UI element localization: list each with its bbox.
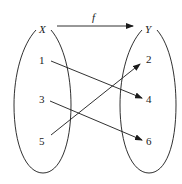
domain-element-5: 5 <box>39 135 45 147</box>
mapping-arrow-1-to-4 <box>51 61 142 98</box>
function-mapping-diagram: X Y f 1 3 5 2 4 6 <box>0 0 182 184</box>
domain-element-3: 3 <box>39 93 45 105</box>
codomain-element-2: 2 <box>146 53 152 65</box>
mapping-arrow-3-to-6 <box>50 101 142 140</box>
codomain-element-6: 6 <box>146 135 152 147</box>
domain-element-1: 1 <box>39 54 45 66</box>
domain-label: X <box>38 23 47 35</box>
codomain-element-4: 4 <box>146 93 152 105</box>
codomain-label: Y <box>145 23 153 35</box>
mapping-arrow-5-to-2 <box>51 64 140 135</box>
function-label: f <box>92 11 97 23</box>
